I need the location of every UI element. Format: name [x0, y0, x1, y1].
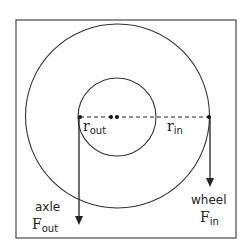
axle-force-arrow-head-icon: [75, 216, 83, 225]
wheel-force-arrow-head-icon: [206, 178, 214, 187]
f-in-label: Fin: [200, 209, 219, 227]
r-out-end-point: [109, 115, 113, 119]
axle-label: axle: [35, 200, 60, 214]
wheel-axle-diagram: rout rin axle Fout wheel Fin: [0, 0, 246, 249]
wheel-label: wheel: [191, 193, 227, 207]
center-point: [115, 115, 119, 119]
f-out-label: Fout: [32, 216, 58, 234]
r-in-label: rin: [167, 118, 183, 136]
r-out-label: rout: [83, 118, 106, 136]
